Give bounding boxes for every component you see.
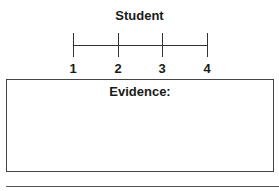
rating-scale: Student 1 2 3 4: [0, 0, 279, 80]
scale-label-1: 1: [63, 61, 83, 76]
scale-line: [73, 45, 208, 46]
evidence-box[interactable]: Evidence:: [6, 79, 274, 172]
scale-label-4: 4: [197, 61, 217, 76]
scale-tick-4[interactable]: [207, 33, 208, 57]
evidence-label: Evidence:: [7, 84, 273, 99]
scale-label-2: 2: [108, 61, 128, 76]
scale-tick-2[interactable]: [118, 33, 119, 57]
scale-tick-3[interactable]: [162, 33, 163, 57]
divider-line: [6, 186, 279, 187]
scale-tick-1[interactable]: [73, 33, 74, 57]
scale-label-3: 3: [152, 61, 172, 76]
scale-title: Student: [0, 8, 279, 23]
